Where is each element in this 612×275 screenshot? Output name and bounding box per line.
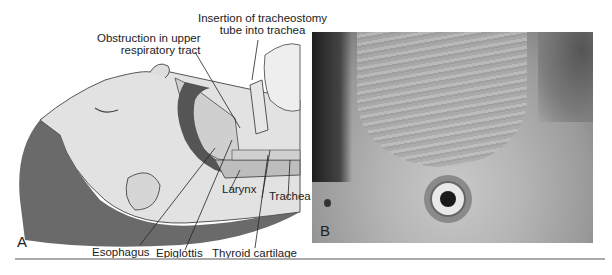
photo-shadow-left bbox=[312, 32, 352, 182]
figure: Insertion of tracheostomy tube into trac… bbox=[0, 0, 612, 275]
label-trachea: Trachea bbox=[269, 190, 311, 202]
neck-skin-folds bbox=[357, 32, 527, 167]
skin-mole bbox=[324, 199, 331, 207]
label-larynx: Larynx bbox=[222, 183, 257, 195]
bottom-rule bbox=[15, 258, 605, 260]
panel-a-letter: A bbox=[17, 233, 27, 250]
tube-opening bbox=[440, 191, 456, 207]
tracheostomy-photo: B bbox=[312, 32, 593, 243]
label-obstruction: Obstruction in upper respiratory tract bbox=[97, 32, 201, 56]
label-esophagus: Esophagus bbox=[92, 246, 150, 258]
photo-shadow-right bbox=[538, 32, 593, 122]
label-insertion: Insertion of tracheostomy tube into trac… bbox=[198, 12, 327, 36]
panel-b-letter: B bbox=[320, 222, 330, 239]
